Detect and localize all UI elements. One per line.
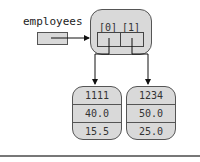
divider bbox=[0, 155, 200, 157]
arrows-layer bbox=[0, 0, 200, 162]
element-1-arrow-icon bbox=[132, 38, 148, 84]
element-0-arrow-icon bbox=[95, 38, 109, 84]
